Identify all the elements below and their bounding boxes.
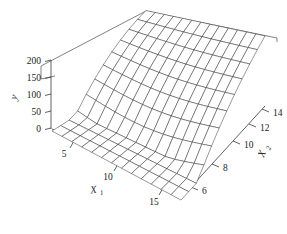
z-tick-100 [45,94,51,96]
x1-tick-label-5: 5 [62,149,67,159]
z-tick-label-0: 0 [36,124,41,134]
x2-tick-label-10: 10 [244,140,254,150]
x2-tick-14 [262,109,269,112]
x2-axis-title: X 2 [255,142,273,160]
x2-tick-label-8: 8 [223,163,228,173]
x2-tick-12 [249,124,256,127]
x2-tick-label-14: 14 [273,108,283,118]
z-tick-label-200: 200 [27,56,42,66]
x1-axis-title-sub: 1 [100,189,105,197]
x2-tick-8 [212,164,219,167]
x2-axis-title-sub: 2 [264,145,273,152]
persp-plot-canvas: 200 150 100 50 0 y 5 10 15 X 1 [0,0,287,234]
z-tick-label-50: 50 [32,107,42,117]
z-tick-50 [45,111,51,113]
x2-tick-label-12: 12 [260,123,270,133]
surface-mesh [52,11,265,201]
surface-plot-figure: 200 150 100 50 0 y 5 10 15 X 1 [0,0,287,234]
x2-tick-label-6: 6 [202,186,207,196]
z-axis-title: y [7,93,19,102]
x1-tick-label-15: 15 [149,197,159,207]
z-axis: 200 150 100 50 0 y [7,56,51,134]
z-tick-label-100: 100 [27,90,42,100]
x1-axis-title: X 1 [89,183,105,199]
x1-axis-title-base: X [89,184,98,196]
x1-tick-label-10: 10 [103,172,113,182]
z-tick-0 [45,128,51,130]
x2-tick-10 [233,141,240,144]
z-tick-label-150: 150 [27,73,42,83]
